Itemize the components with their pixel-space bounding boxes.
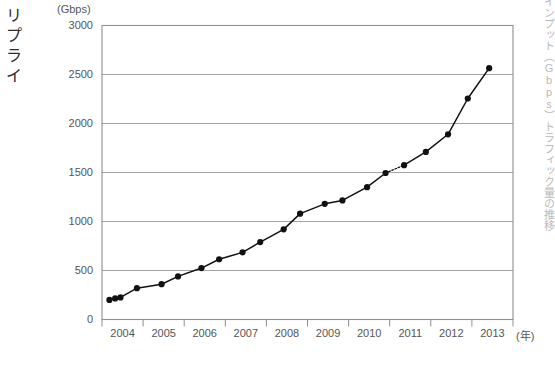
data-point-marker [401, 162, 407, 168]
data-point-marker [382, 170, 388, 176]
data-point-marker [175, 273, 181, 279]
data-point-marker [364, 184, 370, 190]
x-axis-ticks [102, 320, 513, 327]
data-line-segment [300, 204, 325, 214]
data-point-marker [257, 239, 263, 245]
data-markers [106, 65, 492, 303]
data-point-marker [322, 201, 328, 207]
data-point-marker [281, 226, 287, 232]
data-point-marker [339, 197, 345, 203]
gridlines [102, 26, 513, 271]
data-point-marker [134, 285, 140, 291]
data-point-marker [216, 256, 222, 262]
data-point-marker [106, 297, 112, 303]
data-line-segment [448, 99, 468, 135]
data-line-segment [468, 68, 489, 98]
data-point-marker [198, 265, 204, 271]
data-point-marker [117, 294, 123, 300]
data-point-marker [445, 131, 451, 137]
data-point-marker [112, 295, 118, 301]
data-point-marker [239, 249, 245, 255]
data-line-segment [404, 152, 426, 165]
line-chart: (Gbps) 300025002000150010005000 20042005… [0, 0, 555, 385]
data-point-marker [297, 211, 303, 217]
data-point-marker [158, 281, 164, 287]
data-point-marker [486, 65, 492, 71]
data-point-marker [423, 149, 429, 155]
data-line-segment [219, 252, 242, 259]
data-line-segment [178, 268, 201, 276]
data-line-segment [342, 187, 367, 200]
data-point-marker [465, 95, 471, 101]
data-line-segment [367, 173, 385, 187]
data-line-segment [426, 134, 448, 152]
data-line-segment [137, 284, 162, 288]
data-line [109, 68, 489, 300]
data-line-segment [260, 229, 283, 242]
plot-area [0, 0, 555, 385]
